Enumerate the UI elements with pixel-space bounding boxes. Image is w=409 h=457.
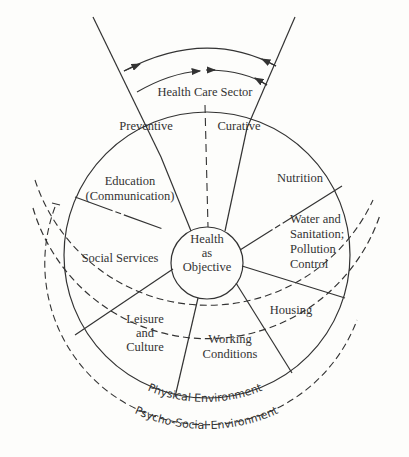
- svg-text:Working: Working: [208, 332, 252, 346]
- health-sectors-diagram: Health Care Sector Preventive Curative N…: [0, 0, 409, 457]
- arrow-icon: [124, 64, 140, 71]
- outer-arc: [124, 48, 276, 71]
- svg-text:Sanitation;: Sanitation;: [290, 227, 344, 241]
- svg-text:Health: Health: [190, 232, 224, 246]
- svg-text:(Communication): (Communication): [86, 189, 175, 203]
- svg-text:Culture: Culture: [126, 340, 164, 354]
- working-conditions-label: Working Conditions: [203, 332, 258, 361]
- curative-label: Curative: [217, 119, 260, 133]
- leisure-culture-label: Leisure and Culture: [126, 312, 164, 354]
- education-label: Education (Communication): [86, 174, 175, 203]
- inner-arc-right: [210, 70, 267, 85]
- svg-text:Leisure: Leisure: [126, 312, 164, 326]
- svg-text:Conditions: Conditions: [203, 347, 258, 361]
- ring-end-tick: [52, 203, 60, 205]
- health-care-sector-label: Health Care Sector: [157, 85, 253, 99]
- physical-environment-label: Physical Environment: [146, 381, 265, 405]
- health-objective-label: Health as Objective: [183, 232, 232, 274]
- spoke: [225, 128, 247, 231]
- svg-text:as: as: [202, 246, 213, 260]
- svg-text:Education: Education: [105, 174, 156, 188]
- housing-label: Housing: [270, 303, 313, 317]
- funnel-right-line: [247, 17, 295, 128]
- nutrition-label: Nutrition: [277, 171, 324, 185]
- water-sanitation-label: Water and Sanitation; Pollution Control: [290, 212, 344, 271]
- arrow-icon: [262, 59, 276, 66]
- svg-text:Pollution: Pollution: [290, 242, 337, 256]
- svg-text:Water and: Water and: [290, 212, 341, 226]
- svg-text:Objective: Objective: [183, 260, 232, 274]
- arrow-icon: [255, 78, 267, 85]
- preventive-label: Preventive: [119, 119, 173, 133]
- psycho-social-environment-label: Psycho-Social Environment: [133, 404, 281, 432]
- spoke-dashed: [205, 105, 208, 227]
- social-services-label: Social Services: [82, 251, 159, 265]
- spoke: [175, 298, 198, 397]
